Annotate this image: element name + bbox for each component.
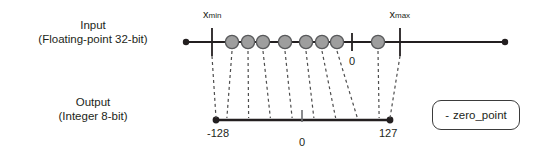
projection-dash [378, 51, 379, 118]
zero-point-marker[interactable] [330, 35, 343, 48]
zero-point-marker[interactable] [278, 35, 291, 48]
zero-point-marker[interactable] [256, 35, 269, 48]
input-zero-label: 0 [349, 55, 355, 69]
zero-point-marker[interactable] [241, 35, 254, 48]
input-axis-right-endpoint [502, 39, 508, 45]
legend-box: - zero_point [432, 100, 520, 130]
projection-dash [263, 51, 270, 118]
x-max-label: xmax [390, 8, 411, 22]
projection-dash [248, 51, 249, 118]
input-axis-left-endpoint [183, 39, 189, 45]
projection-dash [227, 51, 232, 118]
diagram-canvas [0, 0, 539, 157]
quantization-diagram: Input (Floating-point 32-bit) Output (In… [0, 0, 539, 157]
projection-dash-xmin [212, 56, 216, 118]
zero-point-marker[interactable] [225, 35, 238, 48]
x-min-label: xmin [203, 8, 221, 22]
zero-point-marker[interactable] [371, 35, 384, 48]
output-min-label: -128 [207, 127, 229, 141]
x-min-subscript: min [209, 11, 222, 20]
output-max-label: 127 [379, 127, 397, 141]
legend-label: zero_point [453, 109, 507, 121]
projection-dash [306, 51, 314, 118]
projection-dash [285, 51, 292, 118]
projection-dash [322, 51, 336, 118]
output-zero-label: 0 [299, 136, 305, 150]
zero-point-marker[interactable] [299, 35, 312, 48]
legend-marker: - [445, 109, 449, 121]
zero-point-marker[interactable] [315, 35, 328, 48]
x-max-subscript: max [395, 11, 410, 20]
projection-dash-xmax [390, 56, 400, 118]
